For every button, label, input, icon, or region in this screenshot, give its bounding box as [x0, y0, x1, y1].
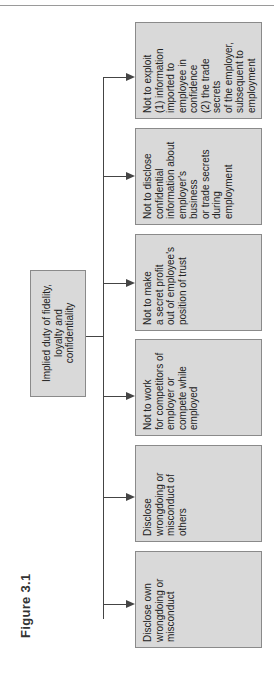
root-connector — [86, 336, 104, 337]
root-label: Implied duty of fidelity, loyalty and co… — [41, 281, 76, 385]
child-label: Not to disclose confidential information… — [142, 135, 234, 219]
figure-title: Figure 3.1 — [18, 574, 33, 638]
page-top-rule — [0, 5, 274, 6]
arrow-icon — [126, 600, 135, 608]
branch-line-2 — [103, 396, 127, 397]
arrow-icon — [126, 392, 135, 400]
root-box: Implied duty of fidelity, loyalty and co… — [30, 270, 86, 397]
child-box-not-disclose-confidential: Not to disclose confidential information… — [135, 128, 262, 225]
child-box-not-compete: Not to work for competitors of employer … — [135, 339, 262, 436]
branch-line-5 — [103, 77, 127, 78]
child-label: Disclose wrongdoing or misconduct of oth… — [142, 452, 188, 536]
child-box-secret-profit: Not to make a secret profit out of emplo… — [135, 234, 262, 331]
child-label: Not to make a secret profit out of emplo… — [142, 241, 188, 325]
child-label: Not to exploit (1) information imported … — [142, 29, 257, 113]
child-box-disclose-others: Disclose wrongdoing or misconduct of oth… — [135, 445, 262, 542]
child-label: Not to work for competitors of employer … — [142, 346, 200, 430]
branch-line-1 — [103, 497, 127, 498]
child-box-not-exploit: Not to exploit (1) information imported … — [135, 22, 262, 119]
branch-line-0 — [103, 604, 127, 605]
arrow-icon — [126, 73, 135, 81]
spine-line — [103, 77, 104, 619]
child-label: Disclose own wrongdoing or misconduct — [142, 558, 177, 642]
branch-line-4 — [103, 176, 127, 177]
arrow-icon — [126, 493, 135, 501]
arrow-icon — [126, 279, 135, 287]
child-box-disclose-own: Disclose own wrongdoing or misconduct — [135, 551, 262, 648]
branch-line-3 — [103, 283, 127, 284]
arrow-icon — [126, 172, 135, 180]
